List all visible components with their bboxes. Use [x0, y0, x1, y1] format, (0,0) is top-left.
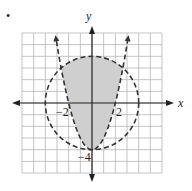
y-axis-arrow-down-icon: [89, 174, 95, 182]
problem-marker: •: [6, 9, 10, 23]
graph: • x y −2 2 −4: [0, 0, 192, 191]
x-axis-label: x: [177, 96, 184, 110]
x-tick-label-neg2: −2: [56, 105, 69, 119]
parabola-arrow-left-icon: [53, 35, 59, 41]
y-tick-label-neg4: −4: [78, 150, 91, 164]
y-axis-label: y: [85, 9, 92, 23]
x-axis-arrow-right-icon: [166, 100, 174, 106]
y-axis-arrow-up-icon: [89, 26, 95, 34]
x-tick-label-2: 2: [116, 105, 122, 119]
x-axis-arrow-left-icon: [12, 100, 20, 106]
parabola-arrow-right-icon: [125, 35, 131, 41]
